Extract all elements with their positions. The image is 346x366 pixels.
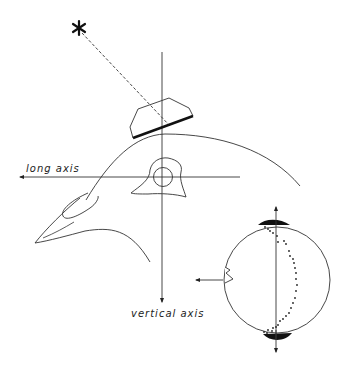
beak-line xyxy=(43,222,74,238)
star-icon xyxy=(73,21,85,35)
head-outline xyxy=(86,134,300,200)
light-ray xyxy=(82,33,170,126)
eyeball-diagram xyxy=(196,207,330,352)
block xyxy=(130,98,193,138)
vertical-axis-label: vertical axis xyxy=(131,308,205,319)
dotted-curve xyxy=(263,226,298,334)
beak-upper xyxy=(35,198,150,262)
long-axis-label: long axis xyxy=(26,163,80,174)
nostril-cere xyxy=(63,193,99,218)
